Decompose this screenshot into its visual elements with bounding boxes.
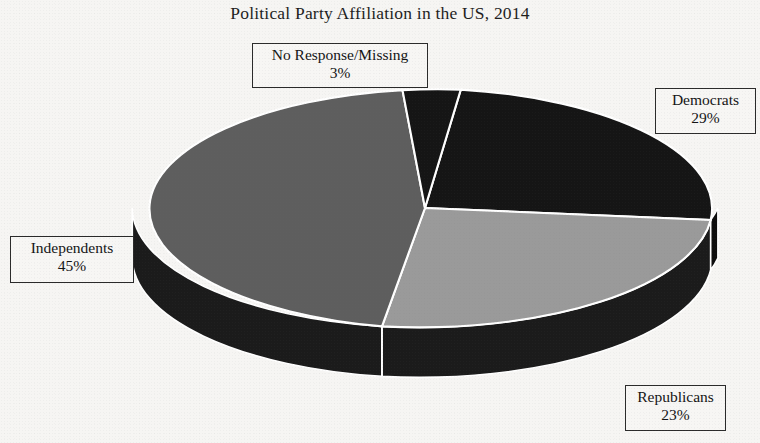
callout-independents-percent: 45% (17, 257, 127, 275)
pie-chart-figure: Political Party Affiliation in the US, 2… (0, 0, 760, 443)
callout-republicans-percent: 23% (632, 406, 719, 424)
callout-democrats-name: Democrats (662, 91, 749, 109)
callout-no-response-name: No Response/Missing (259, 46, 421, 64)
callout-label-republicans: Republicans 23% (625, 385, 726, 431)
callout-independents-name: Independents (17, 239, 127, 257)
callout-no-response-percent: 3% (259, 64, 421, 82)
callout-democrats-percent: 29% (662, 109, 749, 127)
callout-label-democrats: Democrats 29% (655, 88, 756, 134)
pie-top-face (149, 89, 712, 327)
callout-republicans-name: Republicans (632, 388, 719, 406)
callout-label-no-response: No Response/Missing 3% (252, 43, 428, 88)
callout-label-independents: Independents 45% (10, 236, 134, 283)
